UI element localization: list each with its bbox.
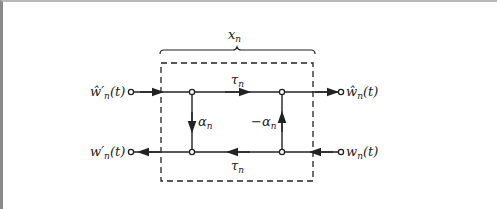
lattice-diagram: xn ŵ′n(t) ŵn(t) w′n(t) wn(t)	[0, 0, 497, 209]
port-label-bottom-right: wn(t)	[346, 144, 378, 161]
bottom-delay-label: τn	[231, 158, 244, 175]
section-brace	[160, 47, 315, 54]
node-bottom-left-junction	[189, 149, 194, 154]
section-label: xn	[228, 27, 241, 44]
node-bottom-right-terminal	[338, 149, 343, 154]
port-label-top-right: ŵn(t)	[346, 84, 378, 101]
port-label-bottom-left: w′n(t)	[90, 144, 125, 161]
node-bottom-right-junction	[279, 149, 284, 154]
top-delay-label: τn	[231, 72, 244, 89]
node-top-left-terminal	[128, 89, 133, 94]
right-cross-label: −αn	[251, 114, 277, 131]
node-bottom-left-terminal	[128, 149, 133, 154]
port-label-top-left: ŵ′n(t)	[90, 84, 125, 101]
left-cross-label: αn	[198, 114, 213, 131]
node-top-left-junction	[189, 89, 194, 94]
node-top-right-junction	[279, 89, 284, 94]
node-top-right-terminal	[338, 89, 343, 94]
